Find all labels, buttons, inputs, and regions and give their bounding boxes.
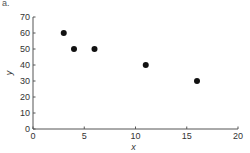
y-tick-label: 40 — [20, 60, 30, 70]
y-axis-label: y — [4, 70, 14, 76]
axes: 01020304050607005101520 — [20, 12, 243, 141]
y-tick-label: 10 — [20, 108, 30, 118]
y-tick-label: 60 — [20, 28, 30, 38]
data-points — [61, 30, 200, 84]
x-tick-label: 20 — [233, 131, 243, 141]
y-tick-label: 0 — [25, 124, 30, 134]
y-tick-label: 70 — [20, 12, 30, 22]
y-tick-label: 30 — [20, 76, 30, 86]
x-tick-label: 0 — [30, 131, 35, 141]
x-tick-label: 10 — [130, 131, 140, 141]
scatter-chart: a. 01020304050607005101520 x y — [0, 0, 250, 153]
x-tick-label: 15 — [182, 131, 192, 141]
panel-label: a. — [2, 0, 10, 8]
y-tick-label: 50 — [20, 44, 30, 54]
y-tick-label: 20 — [20, 92, 30, 102]
data-point — [71, 46, 77, 52]
x-tick-label: 5 — [82, 131, 87, 141]
data-point — [61, 30, 67, 36]
data-point — [194, 78, 200, 84]
x-axis-label: x — [130, 142, 136, 152]
data-point — [92, 46, 98, 52]
data-point — [143, 62, 149, 68]
